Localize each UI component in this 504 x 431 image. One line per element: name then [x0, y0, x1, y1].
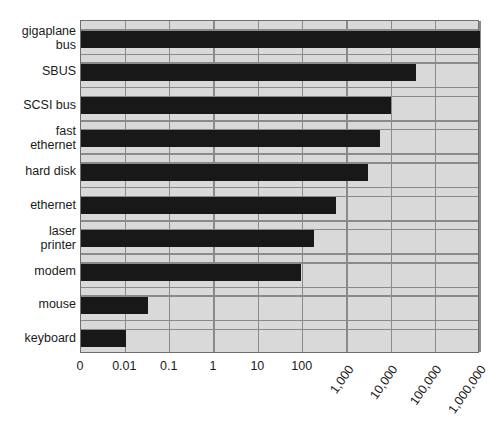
value-tick-label: 0.1: [160, 359, 177, 373]
value-tick-label: 10: [250, 359, 264, 373]
bar: [81, 130, 380, 147]
bar: [81, 197, 336, 214]
horizontal-gridline: [81, 54, 478, 56]
value-tick-label: 100: [291, 359, 312, 373]
value-tick-label-text: 1,000,000: [446, 361, 491, 416]
bandwidth-bar-chart: gigaplane busSBUSSCSI busfast ethernetha…: [0, 0, 504, 431]
horizontal-gridline: [81, 87, 478, 89]
bar: [81, 64, 416, 81]
category-label: mouse: [2, 297, 76, 311]
value-tick-label-text: 1,000: [327, 361, 358, 396]
category-label: keyboard: [2, 331, 76, 345]
bar: [81, 164, 368, 181]
horizontal-gridline: [81, 320, 478, 322]
vertical-gridline: [479, 21, 481, 352]
category-label: SBUS: [2, 64, 76, 78]
value-axis-labels: 00.010.11101001,00010,000100,0001,000,00…: [0, 353, 504, 431]
horizontal-gridline: [81, 187, 478, 189]
bar: [81, 230, 314, 247]
category-label: laser printer: [2, 224, 76, 252]
category-axis-labels: gigaplane busSBUSSCSI busfast ethernetha…: [0, 20, 76, 353]
bar: [81, 264, 301, 281]
horizontal-gridline: [81, 120, 478, 122]
value-tick-label-text: 100,000: [408, 361, 447, 408]
bar: [81, 297, 148, 314]
bar: [81, 97, 391, 114]
horizontal-gridline: [81, 287, 478, 289]
bar: [81, 330, 126, 347]
category-label: gigaplane bus: [2, 24, 76, 52]
category-label: hard disk: [2, 164, 76, 178]
category-label: SCSI bus: [2, 98, 76, 112]
category-label: modem: [2, 264, 76, 278]
value-tick-label: 1: [210, 359, 217, 373]
horizontal-gridline: [81, 220, 478, 222]
value-tick-label: 0.01: [112, 359, 136, 373]
plot-area: [80, 20, 479, 353]
category-label: fast ethernet: [2, 124, 76, 152]
category-label: ethernet: [2, 198, 76, 212]
horizontal-gridline: [81, 253, 478, 255]
bar: [81, 31, 480, 48]
value-tick-label-text: 10,000: [367, 361, 402, 402]
horizontal-gridline: [81, 153, 478, 155]
value-tick-label: 0: [77, 359, 84, 373]
horizontal-gridline: [81, 329, 478, 331]
